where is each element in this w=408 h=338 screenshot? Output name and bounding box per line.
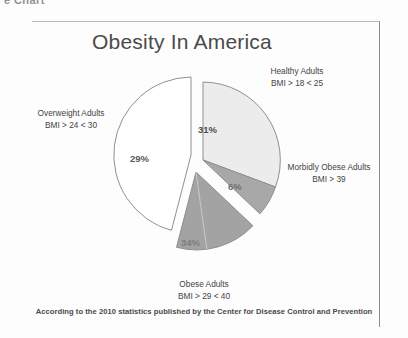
pie-slice-overweight[interactable] [114, 77, 191, 230]
document-page: e Chart Obesity In America 31% 29% 6% 34 [0, 0, 408, 338]
callout-obese-adults: Obese Adults BMI > 29 < 40 [144, 279, 264, 302]
callout-obese-bmi: BMI > 29 < 40 [144, 291, 264, 303]
callout-obese-title: Obese Adults [144, 279, 264, 291]
pie-chart-figure: Obesity In America 31% 29% 6% 34% Health… [32, 22, 380, 327]
document-crumb-text: e Chart [4, 0, 82, 11]
callout-morbid-bmi: BMI > 39 [274, 174, 384, 186]
callout-overweight-adults: Overweight Adults BMI > 24 < 30 [12, 108, 130, 131]
callout-healthy-adults: Healthy Adults BMI > 18 < 25 [245, 66, 349, 89]
callout-overweight-title: Overweight Adults [12, 108, 130, 120]
callout-overweight-bmi: BMI > 24 < 30 [12, 120, 130, 132]
callout-morbid-title: Morbidly Obese Adults [274, 162, 384, 174]
slice-value-morbidly-obese: 6% [228, 181, 242, 192]
chart-source-footnote: According to the 2010 statistics publish… [32, 307, 376, 316]
slice-value-overweight: 29% [130, 153, 149, 164]
callout-healthy-title: Healthy Adults [245, 66, 349, 78]
callout-healthy-bmi: BMI > 18 < 25 [245, 78, 349, 90]
callout-morbidly-obese-adults: Morbidly Obese Adults BMI > 39 [274, 162, 384, 185]
slice-value-obese: 34% [181, 237, 200, 248]
slice-value-healthy: 31% [198, 124, 217, 135]
